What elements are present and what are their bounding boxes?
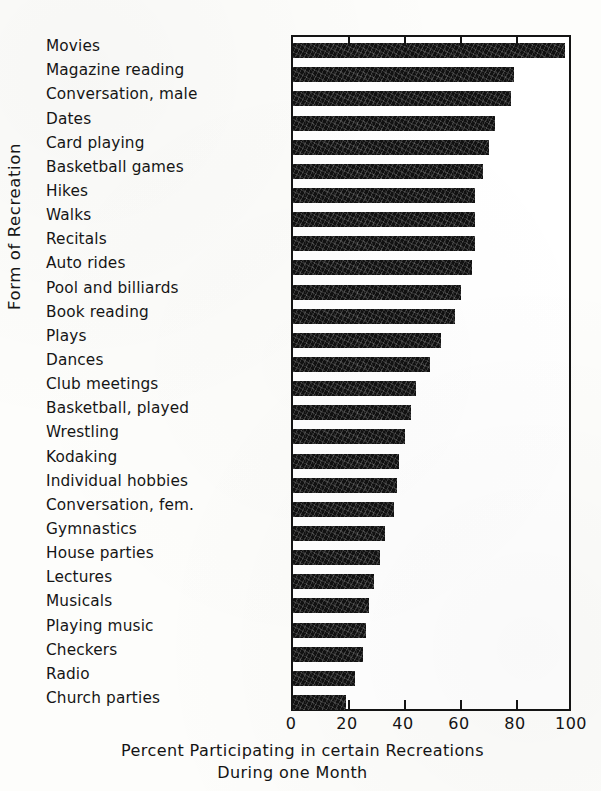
x-axis-tick-label: 20 <box>325 714 369 733</box>
category-label: Magazine reading <box>36 57 279 83</box>
bar <box>293 140 489 155</box>
bar <box>293 647 363 662</box>
category-label: Basketball games <box>36 154 279 180</box>
bar <box>293 285 461 300</box>
chart-caption: Percent Participating in certain Recreat… <box>30 740 575 784</box>
category-label: Recitals <box>36 226 279 252</box>
category-label: Hikes <box>36 178 279 204</box>
category-label: Plays <box>36 323 279 349</box>
category-label: Wrestling <box>36 419 279 445</box>
category-label: Gymnastics <box>36 516 279 542</box>
bar <box>293 526 385 541</box>
x-axis-tick-bottom <box>460 700 462 709</box>
x-axis-tick-label: 40 <box>381 714 425 733</box>
category-label: Radio <box>36 661 279 687</box>
category-label: Dances <box>36 347 279 373</box>
bar <box>293 405 411 420</box>
bar <box>293 188 475 203</box>
x-axis-tick-top <box>404 37 406 46</box>
category-label-column: MoviesMagazine readingConversation, male… <box>36 35 285 711</box>
category-label: House parties <box>36 540 279 566</box>
bar <box>293 550 380 565</box>
x-axis-tick-label: 60 <box>437 714 481 733</box>
plot-frame <box>291 35 571 711</box>
category-label: Church parties <box>36 685 279 711</box>
x-axis-tick-label: 0 <box>269 714 313 733</box>
category-label: Playing music <box>36 613 279 639</box>
category-label: Lectures <box>36 564 279 590</box>
caption-line-2: During one Month <box>30 762 575 784</box>
category-label: Basketball, played <box>36 395 279 421</box>
x-axis-tick-label: 80 <box>493 714 537 733</box>
bar <box>293 260 472 275</box>
bar <box>293 91 511 106</box>
bar <box>293 236 475 251</box>
bar <box>293 623 366 638</box>
category-label: Auto rides <box>36 250 279 276</box>
bar <box>293 695 346 710</box>
category-label: Individual hobbies <box>36 468 279 494</box>
category-label: Kodaking <box>36 444 279 470</box>
category-label: Checkers <box>36 637 279 663</box>
bar <box>293 357 430 372</box>
y-axis-title: Form of Recreation <box>0 50 30 310</box>
x-axis-tick-top <box>348 37 350 46</box>
bar <box>293 671 355 686</box>
bar <box>293 454 399 469</box>
bar <box>293 333 441 348</box>
x-axis-tick-bottom <box>516 700 518 709</box>
plot-area <box>293 37 569 709</box>
category-label: Pool and billiards <box>36 275 279 301</box>
category-label: Walks <box>36 202 279 228</box>
category-label: Card playing <box>36 130 279 156</box>
x-axis-tick-top <box>516 37 518 46</box>
x-axis-tick-bottom <box>404 700 406 709</box>
bar <box>293 502 394 517</box>
bar <box>293 43 565 58</box>
x-axis-tick-bottom <box>348 700 350 709</box>
bar <box>293 574 374 589</box>
bar <box>293 67 514 82</box>
bar <box>293 116 495 131</box>
bar <box>293 478 397 493</box>
category-label: Dates <box>36 106 279 132</box>
bar <box>293 212 475 227</box>
bar <box>293 429 405 444</box>
category-label: Musicals <box>36 588 279 614</box>
category-label: Club meetings <box>36 371 279 397</box>
bar <box>293 309 455 324</box>
caption-line-1: Percent Participating in certain Recreat… <box>121 741 484 760</box>
bar <box>293 598 369 613</box>
category-label: Conversation, fem. <box>36 492 279 518</box>
x-axis-tick-label: 100 <box>549 714 593 733</box>
bar <box>293 164 483 179</box>
category-label: Conversation, male <box>36 81 279 107</box>
bar <box>293 381 416 396</box>
bar-chart-figure: Form of Recreation MoviesMagazine readin… <box>0 0 601 791</box>
category-label: Movies <box>36 33 279 59</box>
x-axis-tick-top <box>460 37 462 46</box>
category-label: Book reading <box>36 299 279 325</box>
